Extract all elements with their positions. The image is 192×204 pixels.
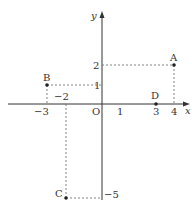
point-c-label: C	[55, 188, 63, 199]
x-axis-label: x	[185, 105, 191, 116]
point-a	[172, 63, 176, 67]
tick-x-4: 4	[171, 106, 177, 117]
guide-lines	[47, 65, 174, 198]
tick-x-3: 3	[153, 106, 159, 117]
point-b-label: B	[43, 72, 50, 83]
tick-x-neg3: −3	[34, 106, 49, 117]
point-d-label: D	[151, 90, 159, 101]
origin-label: O	[92, 106, 100, 117]
tick-y-1: 1	[94, 80, 100, 91]
point-c	[64, 196, 68, 200]
tick-x-neg2: −2	[54, 91, 69, 102]
y-axis-label: y	[90, 10, 97, 21]
y-axis-arrow-icon	[100, 11, 105, 18]
coordinate-plane: A B C D y x O −3 −2 1 3 4 2 1 −5	[0, 0, 192, 204]
tick-x-1: 1	[117, 106, 123, 117]
point-a-label: A	[169, 52, 178, 63]
tick-y-neg5: −5	[104, 189, 119, 200]
tick-y-2: 2	[93, 60, 99, 71]
point-b	[45, 83, 49, 87]
